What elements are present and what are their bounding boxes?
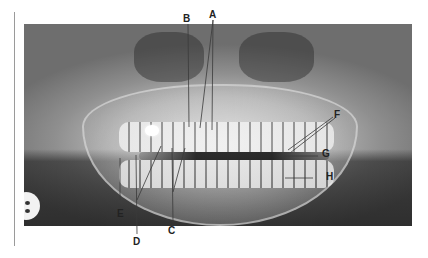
sinus-right bbox=[239, 32, 314, 82]
orientation-marker bbox=[24, 192, 40, 220]
dental-filling bbox=[145, 125, 159, 136]
label-g: G bbox=[322, 149, 330, 159]
label-f: F bbox=[334, 110, 340, 120]
label-e: E bbox=[117, 209, 124, 219]
label-a: A bbox=[209, 10, 216, 20]
panoramic-xray-image bbox=[24, 24, 412, 226]
label-c: C bbox=[168, 226, 175, 236]
sinus-left bbox=[134, 32, 204, 82]
label-h: H bbox=[326, 172, 333, 182]
lower-teeth bbox=[119, 160, 334, 188]
label-d: D bbox=[133, 237, 140, 247]
occlusal-gap bbox=[139, 152, 329, 160]
label-b: B bbox=[183, 14, 190, 24]
margin-rule bbox=[14, 12, 15, 246]
